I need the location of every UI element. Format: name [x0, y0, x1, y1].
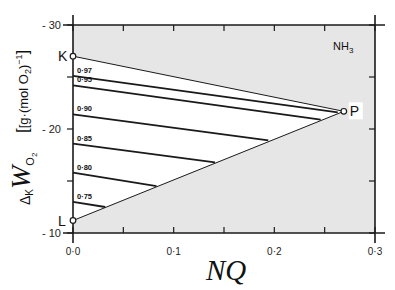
- point-label-p: P: [350, 103, 359, 119]
- x-tick-label: 0·2: [267, 246, 282, 257]
- x-tick-label: 0·1: [166, 246, 181, 257]
- tie-line-label: 0·75: [77, 192, 92, 201]
- svg-text:[[g·(mol O2)−1]: [[g·(mol O2)−1]: [13, 50, 33, 133]
- x-tick-label: 0·0: [66, 246, 81, 257]
- chart: 0·00·10·20·3- 10- 20- 30 KPL 0·970·950·9…: [0, 0, 395, 290]
- tie-line-label: 0·97: [77, 66, 92, 75]
- point-label-k: K: [58, 48, 68, 64]
- tie-line-label: 0·80: [77, 163, 92, 172]
- point-p: [341, 109, 347, 115]
- y-axis-label: ΔKWO2 [[g·(mol O2)−1]: [5, 50, 39, 205]
- tie-line-label: 0·85: [77, 134, 92, 143]
- x-tick-label: 0·3: [368, 246, 383, 257]
- y-tick-label: - 20: [42, 123, 61, 135]
- point-label-l: L: [58, 213, 66, 229]
- y-tick-label: - 30: [42, 19, 61, 31]
- x-axis-label: NQ: [205, 254, 246, 286]
- point-k: [70, 53, 76, 59]
- y-tick-label: - 10: [42, 227, 61, 239]
- point-l: [70, 218, 76, 224]
- svg-text:ΔKWO2: ΔKWO2: [5, 152, 39, 205]
- tie-line-label: 0·95: [77, 75, 92, 84]
- tie-line-label: 0·90: [77, 104, 92, 113]
